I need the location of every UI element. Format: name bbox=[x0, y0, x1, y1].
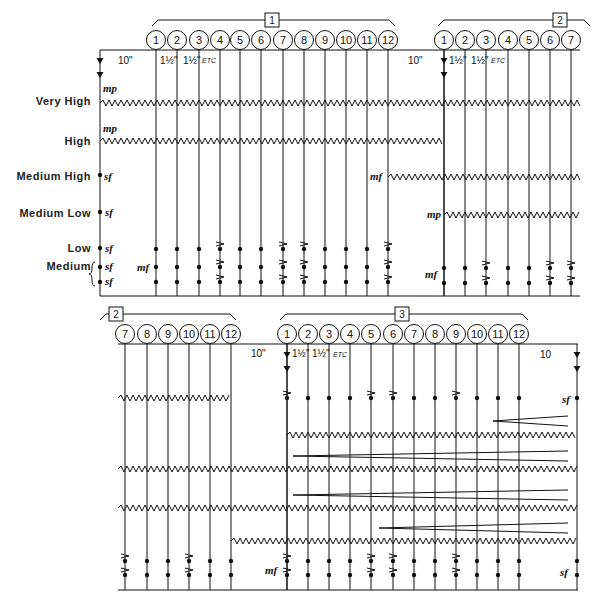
event-number: 7 bbox=[122, 328, 128, 340]
duration-label: 1½" bbox=[183, 55, 201, 66]
attack-dot bbox=[569, 266, 573, 270]
attack-dot bbox=[475, 396, 479, 400]
duration-label: 10" bbox=[251, 348, 266, 359]
attack-dot bbox=[197, 247, 201, 251]
attack-dot bbox=[285, 559, 289, 563]
event-column: 12 bbox=[379, 31, 398, 297]
attack-dot bbox=[569, 281, 573, 285]
attack-dot bbox=[463, 281, 467, 285]
attack-dot bbox=[527, 266, 531, 270]
attack-dot bbox=[344, 247, 348, 251]
event-column: 6 bbox=[252, 31, 271, 297]
attack-dot bbox=[327, 396, 331, 400]
duration-label: 1½" bbox=[160, 55, 178, 66]
register-label-medium: Medium bbox=[46, 260, 91, 272]
attack-dot bbox=[496, 559, 500, 563]
attack-dot bbox=[517, 559, 521, 563]
duration-label: ETC bbox=[333, 351, 348, 358]
event-number: 7 bbox=[568, 34, 574, 46]
attack-dot bbox=[281, 247, 285, 251]
attack-dot bbox=[391, 396, 395, 400]
event-column: 3 bbox=[190, 31, 209, 297]
attack-dot bbox=[454, 559, 458, 563]
dynamic-marking: sf bbox=[103, 170, 113, 182]
attack-dot bbox=[365, 247, 369, 251]
event-column: 11 bbox=[489, 325, 508, 591]
event-column: 11 bbox=[201, 325, 220, 591]
duration-label: 10 bbox=[540, 349, 552, 360]
attack-dot bbox=[484, 281, 488, 285]
attack-dot bbox=[98, 280, 102, 284]
hairpin-crescendo bbox=[293, 490, 568, 500]
attack-dot bbox=[412, 559, 416, 563]
event-column: 8 bbox=[138, 325, 157, 591]
dynamic-marking: sf bbox=[104, 206, 114, 218]
attack-dot bbox=[123, 559, 127, 563]
event-number: 2 bbox=[462, 34, 468, 46]
event-column: 12 bbox=[510, 325, 529, 591]
attack-dot bbox=[259, 247, 263, 251]
attack-dot bbox=[496, 573, 500, 577]
dynamic-marking: sf bbox=[104, 275, 114, 287]
event-number: 10 bbox=[471, 328, 483, 340]
event-number: 6 bbox=[258, 34, 264, 46]
attack-dot bbox=[527, 281, 531, 285]
attack-dot bbox=[506, 266, 510, 270]
attack-dot bbox=[306, 573, 310, 577]
event-column: 2 bbox=[299, 325, 318, 591]
attack-dot bbox=[348, 573, 352, 577]
arrow-down-icon bbox=[97, 72, 104, 78]
arrow-down-icon bbox=[574, 366, 581, 372]
event-column: 5 bbox=[231, 31, 250, 297]
attack-dot bbox=[98, 265, 102, 269]
attack-dot bbox=[454, 573, 458, 577]
event-number: 11 bbox=[361, 34, 372, 46]
attack-dot bbox=[344, 265, 348, 269]
event-number: 4 bbox=[505, 34, 511, 46]
attack-dot bbox=[166, 559, 170, 563]
event-column: 6 bbox=[541, 31, 560, 297]
register-label-medium_low: Medium Low bbox=[19, 207, 91, 219]
attack-dot bbox=[323, 265, 327, 269]
attack-dot bbox=[306, 396, 310, 400]
trill-line bbox=[118, 466, 577, 472]
event-column: 10 bbox=[337, 31, 356, 297]
event-column: 10 bbox=[468, 325, 487, 591]
event-column: 4 bbox=[211, 31, 230, 297]
attack-dot bbox=[327, 573, 331, 577]
event-column: 3 bbox=[477, 31, 496, 297]
attack-dot bbox=[281, 280, 285, 284]
attack-dot bbox=[506, 281, 510, 285]
section-bracket-1: 1 bbox=[152, 13, 395, 27]
attack-dot bbox=[391, 559, 395, 563]
attack-dot bbox=[302, 280, 306, 284]
hairpin-crescendo bbox=[493, 416, 568, 426]
attack-dot bbox=[575, 559, 579, 563]
attack-dot bbox=[197, 280, 201, 284]
section-bracket-2: 2 bbox=[100, 307, 236, 321]
dynamic-marking: mf bbox=[370, 170, 384, 182]
event-number: 1 bbox=[153, 34, 159, 46]
dynamic-marking: mf bbox=[425, 268, 439, 280]
attack-dot bbox=[454, 396, 458, 400]
event-number: 11 bbox=[204, 328, 215, 340]
attack-dot bbox=[412, 573, 416, 577]
event-number: 12 bbox=[382, 34, 394, 46]
event-number: 3 bbox=[196, 34, 202, 46]
attack-dot bbox=[327, 559, 331, 563]
attack-dot bbox=[369, 573, 373, 577]
attack-dot bbox=[98, 173, 102, 177]
event-number: 4 bbox=[217, 34, 223, 46]
attack-dot bbox=[145, 573, 149, 577]
event-column: 1 bbox=[147, 31, 166, 297]
event-number: 8 bbox=[144, 328, 150, 340]
attack-dot bbox=[145, 559, 149, 563]
event-number: 2 bbox=[305, 328, 311, 340]
register-labels: Very HighHighMedium HighMedium LowLowMed… bbox=[16, 95, 95, 286]
event-column: 7 bbox=[562, 31, 581, 297]
arrow-down-icon bbox=[284, 366, 291, 372]
attack-dot bbox=[154, 247, 158, 251]
attack-dot bbox=[187, 559, 191, 563]
attack-dot bbox=[386, 247, 390, 251]
event-number: 1 bbox=[284, 328, 290, 340]
